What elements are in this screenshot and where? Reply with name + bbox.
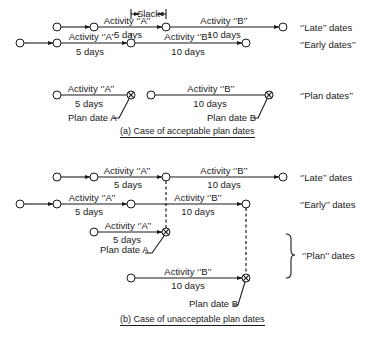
activity-a-duration: 5 days bbox=[114, 29, 142, 40]
plan-date-a-label: Plan date A bbox=[100, 244, 149, 255]
early-dates-row-a: Activity ‘’A’’ 5 days Activity ‘’B’’ 10 … bbox=[16, 31, 356, 57]
activity-b-label: Activity ‘’B’’ bbox=[164, 31, 211, 42]
plan-date-b-marker-icon bbox=[265, 91, 273, 99]
event-node bbox=[16, 200, 24, 208]
event-node bbox=[90, 228, 98, 236]
schedule-diagram: Slack Activity ‘’A’’ 5 days Activity ‘’B… bbox=[0, 0, 367, 341]
plan-dates-label: ‘’Plan dates’’ bbox=[300, 90, 353, 101]
event-node bbox=[127, 39, 135, 47]
event-node bbox=[279, 173, 287, 181]
activity-b-duration: 10 days bbox=[181, 206, 215, 217]
plan-a-row-b: Activity ‘’A’’ 5 days Plan date A bbox=[90, 220, 170, 255]
activity-a-duration: 5 days bbox=[114, 179, 142, 190]
event-node bbox=[53, 200, 61, 208]
activity-b-label: Activity ‘’B’’ bbox=[187, 83, 234, 94]
activity-b-duration: 10 days bbox=[193, 98, 227, 109]
late-dates-row-b: Activity ‘’A’’ 5 days Activity ‘’B’’ 10 … bbox=[53, 165, 353, 190]
event-node bbox=[162, 23, 170, 31]
early-dates-row-b: Activity ‘’A’’ 5 days Activity ‘’B’’ 10 … bbox=[16, 192, 356, 217]
early-dates-label: ‘’Early dates’’ bbox=[300, 39, 356, 50]
event-node bbox=[16, 39, 24, 47]
activity-b-duration: 10 days bbox=[171, 46, 205, 57]
caption-a: (a) Case of acceptable plan dates bbox=[120, 126, 255, 136]
activity-a-label: Activity ‘’A’’ bbox=[69, 192, 116, 203]
activity-a-label: Activity ‘’A’’ bbox=[68, 83, 115, 94]
plan-date-a-marker-icon bbox=[162, 228, 170, 236]
plan-date-a-marker-icon bbox=[127, 91, 135, 99]
plan-dates-row-a: Activity ‘’A’’ 5 days Activity ‘’B’’ 10 … bbox=[53, 83, 353, 123]
event-node bbox=[279, 23, 287, 31]
event-node bbox=[242, 200, 250, 208]
plan-dates-label: ‘’Plan’’ dates bbox=[302, 250, 355, 261]
plan-date-a-label: Plan date A bbox=[68, 112, 117, 123]
caption-b: (b) Case of unacceptable plan dates bbox=[120, 314, 265, 324]
event-node bbox=[53, 39, 61, 47]
event-node bbox=[90, 23, 98, 31]
activity-a-duration: 5 days bbox=[75, 206, 103, 217]
activity-b-duration: 10 days bbox=[207, 29, 241, 40]
plan-dates-brace bbox=[286, 234, 295, 278]
late-dates-label: ‘’Late’’ dates bbox=[300, 22, 353, 33]
event-node bbox=[90, 173, 98, 181]
event-node bbox=[127, 274, 135, 282]
activity-a-label: Activity ‘’A’’ bbox=[104, 15, 151, 26]
activity-a-duration: 5 days bbox=[76, 46, 104, 57]
event-node bbox=[242, 39, 250, 47]
event-node bbox=[147, 91, 155, 99]
activity-a-label: Activity ‘’A’’ bbox=[69, 31, 116, 42]
plan-date-b-marker-icon bbox=[242, 274, 250, 282]
early-dates-label: ‘’Early’’ dates bbox=[300, 199, 356, 210]
activity-b-label: Activity ‘’B’’ bbox=[200, 15, 247, 26]
plan-b-row-b: Activity ‘’B’’ 10 days Plan date B bbox=[127, 266, 250, 309]
event-node bbox=[53, 23, 61, 31]
event-node bbox=[53, 173, 61, 181]
late-dates-label: ‘’Late’’ dates bbox=[300, 172, 353, 183]
activity-a-label: Activity ‘’A’’ bbox=[105, 220, 152, 231]
plan-date-b-label: Plan date B bbox=[189, 298, 238, 309]
activity-a-duration: 5 days bbox=[75, 98, 103, 109]
panel-b: Activity ‘’A’’ 5 days Activity ‘’B’’ 10 … bbox=[16, 165, 356, 326]
activity-b-label: Activity ‘’B’’ bbox=[174, 192, 221, 203]
activity-a-label: Activity ‘’A’’ bbox=[104, 165, 151, 176]
plan-date-b-label: Plan date B bbox=[207, 112, 256, 123]
event-node bbox=[127, 200, 135, 208]
activity-b-duration: 10 days bbox=[171, 280, 205, 291]
activity-b-label: Activity ‘’B’’ bbox=[200, 165, 247, 176]
activity-b-label: Activity ‘’B’’ bbox=[164, 266, 211, 277]
event-node bbox=[162, 173, 170, 181]
activity-b-duration: 10 days bbox=[207, 179, 241, 190]
panel-a: Slack Activity ‘’A’’ 5 days Activity ‘’B… bbox=[16, 8, 356, 138]
event-node bbox=[53, 91, 61, 99]
